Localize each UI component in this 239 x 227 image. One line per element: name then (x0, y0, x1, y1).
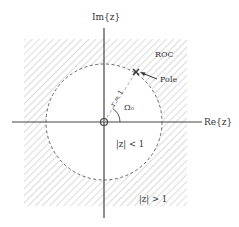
imag-axis-label: Im{z} (92, 12, 120, 22)
real-axis-label: Re{z} (204, 117, 232, 127)
inside-label: |z| < 1 (116, 139, 144, 150)
angle-label: Ω₀ (124, 103, 134, 112)
z-plane-diagram: Im{z} Re{z} ROC Pole r = 1 Ω₀ |z| < 1 |z… (0, 0, 239, 227)
pole-label: Pole (160, 75, 177, 84)
outside-label: |z| > 1 (139, 194, 167, 205)
roc-label: ROC (155, 50, 174, 59)
